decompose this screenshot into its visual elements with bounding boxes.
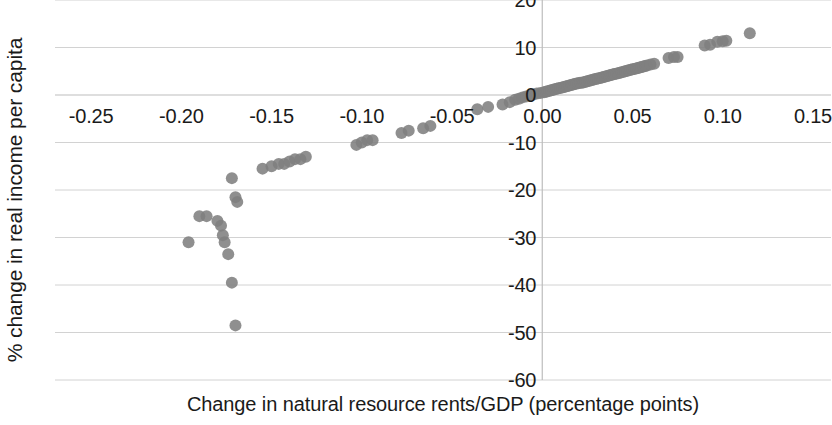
data-point (229, 319, 241, 331)
x-tick-label: 0.05 (613, 105, 651, 128)
data-points-group (183, 27, 756, 331)
data-point (201, 210, 213, 222)
x-tick-label: -0.20 (159, 105, 204, 128)
plot-area (55, 0, 831, 380)
gridlines-group (55, 0, 831, 380)
plot-svg (55, 0, 831, 380)
x-axis-title: Change in natural resource rents/GDP (pe… (55, 393, 831, 416)
x-tick-label: 0.10 (704, 105, 742, 128)
y-tick-label: 0 (486, 84, 536, 107)
y-tick-label: -20 (486, 179, 536, 202)
data-point (229, 191, 241, 203)
y-tick-label: -30 (486, 226, 536, 249)
data-point (215, 220, 227, 232)
x-axis-title-text: Change in natural resource rents/GDP (pe… (187, 393, 699, 415)
data-point (183, 236, 195, 248)
y-tick-label: -50 (486, 321, 536, 344)
y-tick-label: 20 (486, 0, 536, 12)
data-point (403, 125, 415, 137)
x-tick-label: -0.10 (339, 105, 384, 128)
y-tick-label: -60 (486, 369, 536, 392)
y-axis-title: % change in real income per capita (0, 0, 30, 400)
data-point (226, 277, 238, 289)
y-axis-title-text: % change in real income per capita (3, 38, 27, 363)
data-point (300, 151, 312, 163)
y-tick-label: -10 (486, 131, 536, 154)
data-point (720, 35, 732, 47)
data-point (744, 27, 756, 39)
data-point (648, 58, 660, 70)
x-tick-label: -0.05 (430, 105, 475, 128)
data-point (672, 51, 684, 63)
x-tick-label: 0.00 (523, 105, 561, 128)
data-point (367, 134, 379, 146)
data-point (226, 172, 238, 184)
x-tick-label: -0.25 (69, 105, 114, 128)
x-tick-label: 0.15 (794, 105, 832, 128)
y-tick-label: -40 (486, 274, 536, 297)
x-tick-label: -0.15 (249, 105, 294, 128)
y-tick-label: 10 (486, 36, 536, 59)
data-point (222, 248, 234, 260)
